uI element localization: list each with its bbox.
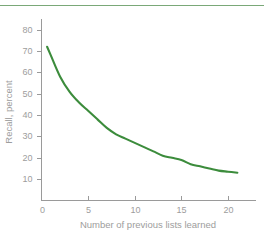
y-tick-label: 20 [22, 153, 32, 163]
x-tick-label: 0 [40, 205, 45, 215]
x-axis-title: Number of previous lists learned [80, 219, 216, 230]
x-tick-label: 5 [86, 205, 91, 215]
chart-plot: 1020304050607080 05101520 Number of prev… [0, 0, 264, 238]
figure-canvas: 1020304050607080 05101520 Number of prev… [0, 0, 264, 238]
y-axis-tick-labels: 1020304050607080 [22, 25, 32, 184]
x-tick-label: 15 [176, 205, 186, 215]
y-tick-label: 30 [22, 131, 32, 141]
y-tick-label: 40 [22, 110, 32, 120]
x-axis-ticks [89, 196, 229, 201]
y-tick-label: 80 [22, 25, 32, 35]
y-tick-label: 50 [22, 89, 32, 99]
y-tick-label: 70 [22, 46, 32, 56]
y-tick-label: 10 [22, 174, 32, 184]
y-axis-title: Recall, percent [3, 80, 14, 144]
axes-group [42, 19, 257, 201]
y-tick-label: 60 [22, 67, 32, 77]
y-axis-ticks [37, 31, 42, 180]
x-tick-label: 20 [223, 205, 233, 215]
x-tick-label: 10 [130, 205, 140, 215]
x-axis-tick-labels: 05101520 [40, 205, 234, 215]
recall-decay-curve [47, 47, 237, 173]
